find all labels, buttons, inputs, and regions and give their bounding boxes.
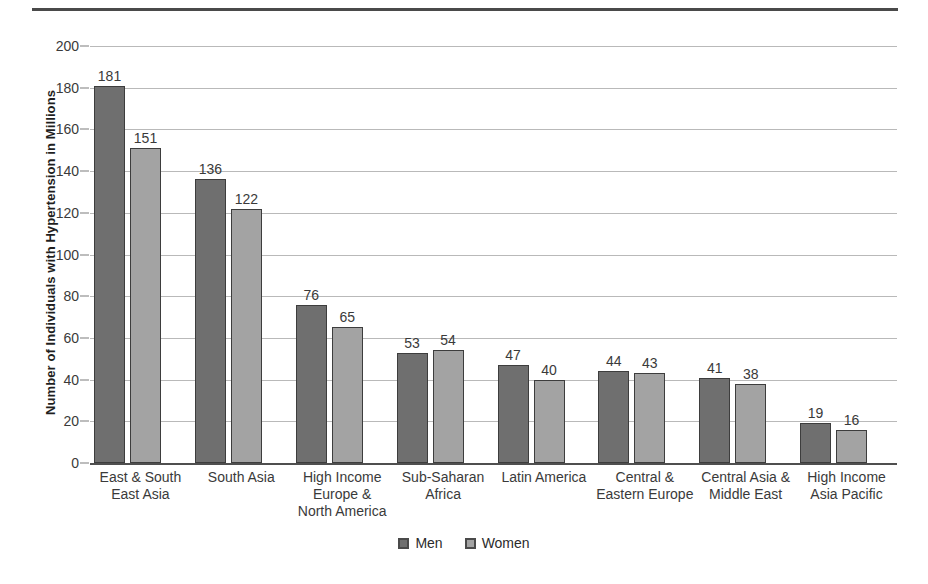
bar-group: 1916	[796, 46, 897, 463]
bar-value-label: 47	[505, 347, 521, 363]
bar-value-label: 151	[134, 130, 157, 146]
bar-men[interactable]: 47	[498, 365, 529, 463]
y-axis-tick-label: 40	[63, 372, 79, 388]
y-axis-tick-mark	[80, 129, 89, 130]
bar-women[interactable]: 16	[836, 430, 867, 463]
bar-men[interactable]: 76	[296, 305, 327, 463]
bar-group: 4740	[494, 46, 595, 463]
bar-value-label: 53	[404, 335, 420, 351]
bar-women[interactable]: 122	[231, 209, 262, 463]
y-axis-tick-label: 200	[56, 38, 79, 54]
y-axis-tick-label: 60	[63, 330, 79, 346]
bar-group: 5354	[393, 46, 494, 463]
y-axis-tick-mark	[80, 87, 89, 88]
bar-women[interactable]: 43	[634, 373, 665, 463]
y-axis-tick-mark	[80, 46, 89, 47]
bar-value-label: 40	[541, 362, 557, 378]
bar-group: 7665	[292, 46, 393, 463]
y-axis-tick-label: 140	[56, 163, 79, 179]
x-axis-category-labels: East & SouthEast AsiaSouth AsiaHigh Inco…	[90, 469, 897, 531]
plot-area: 200180160140120100806040200 181151136122…	[90, 46, 897, 463]
bar-value-label: 54	[440, 332, 456, 348]
x-axis-baseline	[90, 463, 897, 465]
bar-men[interactable]: 136	[195, 179, 226, 463]
legend-swatch-icon	[465, 538, 476, 549]
y-axis-tick-mark	[80, 296, 89, 297]
category-label-line: High Income	[778, 469, 915, 486]
bar-women[interactable]: 54	[433, 350, 464, 463]
bar-men[interactable]: 41	[699, 378, 730, 463]
bar-women[interactable]: 151	[130, 148, 161, 463]
bar-value-label: 44	[606, 353, 622, 369]
legend-item-women[interactable]: Women	[465, 535, 530, 551]
bar-value-label: 136	[199, 161, 222, 177]
bar-group: 181151	[90, 46, 191, 463]
bar-value-label: 76	[303, 287, 319, 303]
bar-group: 136122	[191, 46, 292, 463]
y-axis-tick-label: 20	[63, 413, 79, 429]
bar-group: 4443	[594, 46, 695, 463]
category-label-line: Asia Pacific	[778, 486, 915, 503]
bar-value-label: 19	[808, 405, 824, 421]
bar-value-label: 41	[707, 360, 723, 376]
bar-value-label: 16	[844, 412, 860, 428]
legend-label: Women	[482, 535, 530, 551]
y-axis-tick-mark	[80, 421, 89, 422]
bar-value-label: 122	[235, 191, 258, 207]
bar-value-label: 181	[98, 68, 121, 84]
bar-value-label: 65	[339, 309, 355, 325]
y-axis-tick-label: 160	[56, 121, 79, 137]
y-axis-tick-mark	[80, 337, 89, 338]
bars-layer: 181151136122766553544740444341381916	[90, 46, 897, 463]
bar-value-label: 38	[743, 366, 759, 382]
bar-men[interactable]: 19	[800, 423, 831, 463]
category-label-line: North America	[274, 503, 411, 520]
top-divider-rule	[32, 8, 898, 11]
chart-legend: MenWomen	[0, 535, 928, 551]
bar-women[interactable]: 38	[735, 384, 766, 463]
y-axis-tick-mark	[80, 254, 89, 255]
bar-men[interactable]: 44	[598, 371, 629, 463]
legend-swatch-icon	[398, 538, 409, 549]
y-axis-tick-mark	[80, 171, 89, 172]
y-axis-tick-label: 100	[56, 247, 79, 263]
legend-item-men[interactable]: Men	[398, 535, 442, 551]
y-axis-tick-mark	[80, 379, 89, 380]
y-axis-tick-label: 180	[56, 80, 79, 96]
bar-women[interactable]: 40	[534, 380, 565, 463]
x-axis-category-label: High IncomeAsia Pacific	[778, 469, 915, 503]
bar-men[interactable]: 181	[94, 86, 125, 463]
y-axis-tick-mark	[80, 463, 89, 464]
category-label-line: Africa	[374, 486, 511, 503]
y-axis-tick-label: 120	[56, 205, 79, 221]
bar-men[interactable]: 53	[397, 353, 428, 464]
bar-group: 4138	[695, 46, 796, 463]
y-axis-tick-label: 80	[63, 288, 79, 304]
legend-label: Men	[415, 535, 442, 551]
bar-women[interactable]: 65	[332, 327, 363, 463]
hypertension-bar-chart-figure: Number of Individuals with Hypertension …	[0, 0, 928, 584]
y-axis-tick-mark	[80, 212, 89, 213]
category-label-line: East Asia	[72, 486, 209, 503]
bar-value-label: 43	[642, 355, 658, 371]
